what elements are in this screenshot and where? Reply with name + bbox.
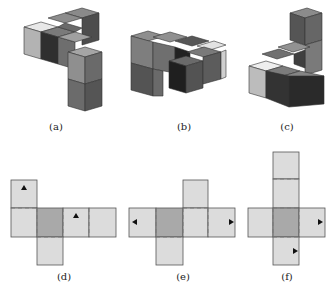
net-face xyxy=(63,208,89,237)
net-center-face xyxy=(273,208,299,237)
figure-label-e: (e) xyxy=(176,271,190,282)
net-face xyxy=(183,180,208,208)
net-face xyxy=(156,237,183,265)
net-center-face xyxy=(37,208,63,237)
net-face xyxy=(273,179,299,208)
cube-figure-c xyxy=(249,8,324,107)
net-face xyxy=(273,152,299,179)
figure-label-d: (d) xyxy=(57,271,71,282)
net-face xyxy=(11,208,37,237)
net-center-face xyxy=(156,208,183,237)
figure-label-c: (c) xyxy=(280,121,294,132)
cube-net-f xyxy=(248,152,325,265)
figure-label-b: (b) xyxy=(177,121,191,132)
figure-label-a: (a) xyxy=(49,121,63,132)
net-face xyxy=(11,180,37,208)
figure-label-f: (f) xyxy=(281,271,293,282)
cube-figure-a xyxy=(24,8,102,111)
figure-canvas: (a) (b) (c) xyxy=(0,0,336,290)
cube-net-e xyxy=(129,180,235,265)
net-face xyxy=(248,208,273,237)
net-face xyxy=(89,208,116,237)
net-face xyxy=(37,237,63,265)
net-face xyxy=(183,208,208,237)
cube-figure-b xyxy=(131,31,226,96)
cube-net-d xyxy=(11,180,116,265)
